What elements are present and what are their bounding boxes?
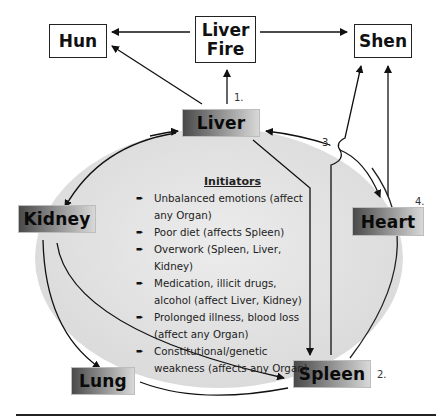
- step-number-2: 2.: [377, 369, 387, 380]
- lung-organ-box: Lung: [71, 367, 135, 395]
- initiators-list: ➨ Unbalanced emotions (affect any Organ)…: [136, 190, 311, 377]
- arrow-bullet-icon: ➨: [136, 343, 144, 360]
- liver-fire-label-line1: Liver: [202, 21, 250, 40]
- kidney-organ-label: Kidney: [23, 209, 90, 229]
- list-item: ➨ Medication, illicit drugs, alcohol (af…: [136, 275, 311, 309]
- step-number-4: 4.: [415, 196, 425, 207]
- shen-box: Shen: [354, 24, 412, 58]
- list-item-text: Medication, illicit drugs, alcohol (affe…: [154, 277, 302, 306]
- hun-label: Hun: [59, 32, 97, 51]
- lung-organ-label: Lung: [79, 371, 127, 391]
- list-item: ➨ Poor diet (affects Spleen): [136, 224, 311, 241]
- kidney-organ-box: Kidney: [18, 205, 96, 233]
- arrow-bullet-icon: ➨: [136, 190, 144, 207]
- list-item-text: Constitutional/genetic weakness (affects…: [154, 345, 308, 374]
- shen-label: Shen: [359, 32, 407, 51]
- list-item-text: Poor diet (affects Spleen): [154, 226, 284, 238]
- arrow-bullet-icon: ➨: [136, 241, 144, 258]
- liver-fire-box: Liver Fire: [195, 16, 256, 63]
- liver-organ-box: Liver: [182, 109, 260, 137]
- heart-organ-box: Heart: [352, 207, 424, 236]
- diagram-canvas: Hun Liver Fire Shen Liver Kidney Heart L…: [0, 0, 442, 418]
- arrow-bullet-icon: ➨: [136, 275, 144, 292]
- initiators-title: Initiators: [136, 173, 311, 190]
- list-item: ➨ Unbalanced emotions (affect any Organ): [136, 190, 311, 224]
- hun-box: Hun: [49, 24, 107, 58]
- step-number-3: 3.: [322, 137, 332, 148]
- liver-organ-label: Liver: [197, 113, 246, 133]
- initiators-panel: Initiators ➨ Unbalanced emotions (affect…: [136, 173, 311, 377]
- liver-fire-label-line2: Fire: [207, 40, 244, 59]
- step-number-1: 1.: [234, 92, 244, 103]
- arrow-bullet-icon: ➨: [136, 309, 144, 326]
- list-item-text: Unbalanced emotions (affect any Organ): [154, 192, 303, 221]
- list-item: ➨ Prolonged illness, blood loss (affect …: [136, 309, 311, 343]
- list-item-text: Overwork (Spleen, Liver, Kidney): [154, 243, 281, 272]
- list-item-text: Prolonged illness, blood loss (affect an…: [154, 311, 299, 340]
- heart-organ-label: Heart: [361, 212, 416, 232]
- list-item: ➨ Overwork (Spleen, Liver, Kidney): [136, 241, 311, 275]
- bottom-divider: [16, 414, 436, 416]
- list-item: ➨ Constitutional/genetic weakness (affec…: [136, 343, 311, 377]
- arrow-bullet-icon: ➨: [136, 224, 144, 241]
